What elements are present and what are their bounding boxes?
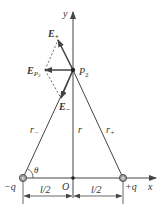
positive-charge-highlight bbox=[121, 176, 124, 179]
origin-point bbox=[71, 176, 75, 180]
e-minus-vector bbox=[61, 70, 73, 98]
r-plus-label: r+ bbox=[106, 124, 115, 137]
origin-label: O bbox=[62, 181, 69, 192]
dipole-field-diagram: y x P2 E+ EP2 E− r− r r+ θ O −q +q l/2 l… bbox=[0, 0, 162, 208]
negative-charge-highlight bbox=[21, 176, 24, 179]
dashed-line-upper bbox=[45, 40, 58, 70]
positive-charge-label: +q bbox=[125, 181, 137, 192]
e-plus-label: E+ bbox=[47, 28, 59, 41]
e-minus-label: E− bbox=[58, 101, 70, 114]
negative-charge-label: −q bbox=[4, 181, 16, 192]
theta-arc bbox=[28, 169, 33, 178]
half-l-left-label: l/2 bbox=[40, 184, 51, 195]
x-axis-label: x bbox=[147, 181, 153, 192]
r-minus-label: r− bbox=[30, 124, 39, 137]
e-p2-label: EP2 bbox=[26, 65, 41, 78]
y-axis-label: y bbox=[62, 8, 68, 19]
half-l-right-label: l/2 bbox=[91, 184, 102, 195]
theta-label: θ bbox=[34, 165, 39, 175]
point-p2-label: P2 bbox=[78, 66, 89, 79]
point-p2 bbox=[71, 68, 75, 72]
e-plus-vector bbox=[58, 40, 73, 70]
r-label: r bbox=[78, 124, 82, 135]
dashed-line-lower bbox=[45, 70, 61, 98]
